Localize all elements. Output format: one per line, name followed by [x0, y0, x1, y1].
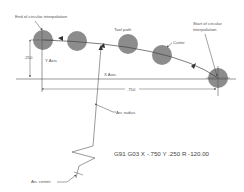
x-axis-label: X Axis	[104, 72, 116, 77]
y-axis-label: Y Axis	[45, 58, 57, 63]
gcode-text: G91 G03 X -.750 Y .250 R -120.00	[114, 150, 210, 157]
tool-path-label: Tool path	[114, 27, 132, 32]
start-label-line2: interpolation	[193, 27, 217, 32]
arc-radius-label: Arc radius	[116, 110, 135, 115]
cutter-4	[152, 45, 172, 65]
cutter-label: Cutter	[173, 40, 185, 45]
circular-interpolation-diagram: .250 .750 Y Axis X Axis End of circular …	[0, 0, 244, 192]
arc-radius-line	[72, 47, 101, 178]
cutter-3	[118, 34, 138, 54]
y-dimension-label: .250	[24, 55, 33, 60]
start-label-line1: Start of circular	[193, 21, 222, 26]
arc-center-label: Arc center	[31, 179, 51, 184]
x-dimension-label: .750	[127, 87, 136, 92]
end-label: End of circular interpolation	[15, 14, 68, 19]
tool-path-arrow	[58, 36, 63, 41]
